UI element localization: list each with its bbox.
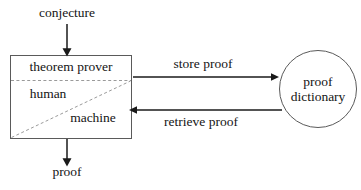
human-label: human	[30, 87, 67, 100]
machine-label: machine	[70, 111, 116, 124]
theorem-prover-label: theorem prover	[30, 60, 113, 73]
proof-dictionary-label: proof dictionary	[291, 75, 346, 104]
proof-dictionary-line-1: proof	[291, 75, 346, 90]
conjecture-label: conjecture	[39, 6, 95, 19]
store-proof-label: store proof	[174, 57, 233, 70]
proof-output-label: proof	[52, 165, 81, 178]
retrieve-proof-label: retrieve proof	[164, 115, 238, 128]
proof-dictionary-line-2: dictionary	[291, 90, 346, 105]
diagram-canvas: conjecture theorem prover human machine …	[0, 0, 361, 190]
